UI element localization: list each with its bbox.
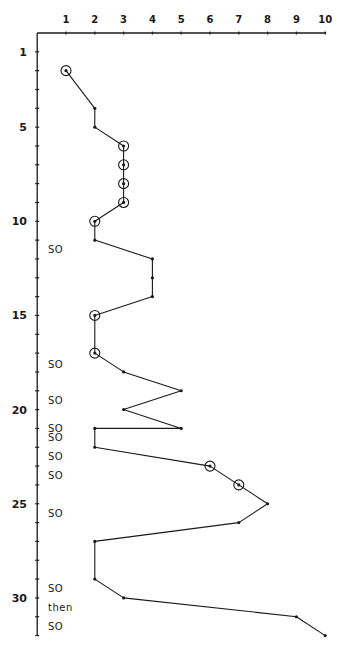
data-point [93,540,96,543]
data-point [237,521,240,524]
data-point [93,314,96,317]
annotation-label: SO [48,395,63,406]
x-tick-label: 4 [149,14,156,25]
annotation-label: then [48,602,73,613]
x-tick-label: 9 [293,14,300,25]
data-point [180,427,183,430]
x-axis-ticks: 12345678910 [63,14,333,35]
data-point [151,276,154,279]
data-point [122,182,125,185]
data-series [61,66,327,638]
x-tick-label: 6 [207,14,214,25]
data-point [93,239,96,242]
x-tick-label: 5 [178,14,185,25]
data-point [180,389,183,392]
data-point [122,144,125,147]
line-chart: 12345678910 151015202530 SOSOSOSOSOSOSOS… [0,0,356,652]
data-point [151,257,154,260]
annotation-label: SO [48,583,63,594]
data-point [122,370,125,373]
x-tick-label: 10 [318,14,332,25]
data-point [324,634,327,637]
data-point [266,502,269,505]
y-tick-label: 20 [12,404,28,417]
data-line [66,71,325,636]
y-tick-label: 15 [12,309,27,322]
data-point [151,295,154,298]
y-tick-label: 30 [12,592,28,605]
data-point [295,615,298,618]
axes [37,33,326,636]
annotation-label: SO [48,508,63,519]
annotation-label: SO [48,432,63,443]
x-tick-label: 8 [264,14,271,25]
data-point [93,352,96,355]
x-tick-label: 1 [63,14,70,25]
y-axis-ticks: 151015202530 [12,46,40,636]
data-point [122,201,125,204]
y-tick-label: 10 [12,215,28,228]
annotation-label: SO [48,244,63,255]
annotation-label: SO [48,359,63,370]
y-tick-label: 1 [19,46,27,59]
data-point [122,163,125,166]
data-point [208,464,211,467]
data-point [122,596,125,599]
x-tick-label: 7 [235,14,242,25]
annotations: SOSOSOSOSOSOSOSOSOthenSO [48,244,73,632]
data-point [64,69,67,72]
y-tick-label: 5 [19,121,27,134]
data-point [93,126,96,129]
y-tick-label: 25 [12,498,27,511]
annotation-label: SO [48,621,63,632]
data-point [93,220,96,223]
data-point [122,408,125,411]
data-point [93,107,96,110]
data-point [93,427,96,430]
data-point [93,446,96,449]
data-point [237,483,240,486]
annotation-label: SO [48,451,63,462]
x-tick-label: 3 [120,14,127,25]
annotation-label: SO [48,470,63,481]
data-point [93,577,96,580]
x-tick-label: 2 [91,14,98,25]
